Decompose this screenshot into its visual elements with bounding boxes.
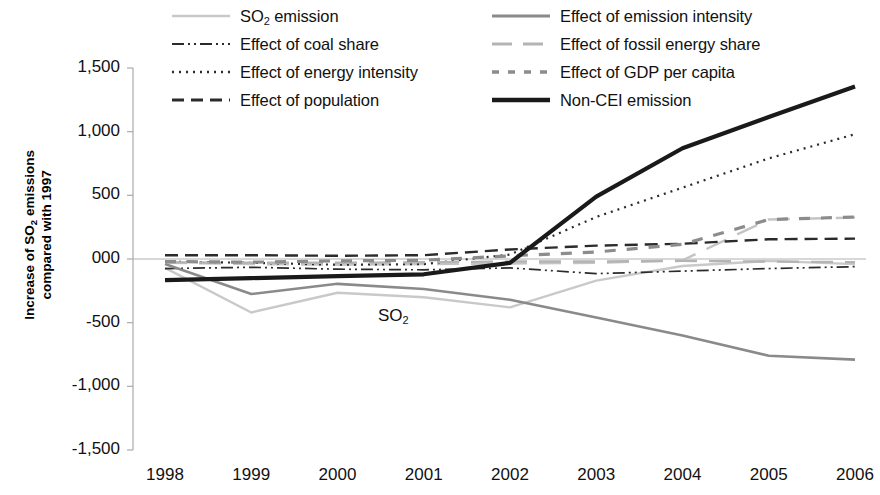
x-axis-tick-label: 2004 [648,465,718,485]
x-axis-tick-label: 1998 [130,465,200,485]
x-axis-tick-label: 1999 [216,465,286,485]
y-axis-tick-label: -1,500 [42,439,120,459]
y-axis-tick-label: 1,000 [42,121,120,141]
y-axis-tick-label: 1,500 [42,57,120,77]
x-axis-tick-label: 2000 [303,465,373,485]
plot-area [0,0,880,495]
series-line-3 [165,239,855,256]
y-axis-tick-label: 500 [42,184,120,204]
chart-container: SO2 emission Effect of emission intensit… [0,0,880,495]
series-line-2 [165,134,855,265]
so2-series-annotation: SO2 [378,306,409,326]
x-axis-tick-label: 2001 [389,465,459,485]
x-axis-tick-label: 2003 [561,465,631,485]
y-axis-tick-label: -1,000 [42,375,120,395]
x-axis-tick-label: 2006 [820,465,880,485]
y-axis-tick-label: 000 [42,248,120,268]
x-axis-tick-label: 2005 [734,465,804,485]
x-axis-tick-label: 2002 [475,465,545,485]
series-line-1 [165,267,855,274]
series-line-7 [165,86,855,280]
y-axis-tick-label: -500 [42,312,120,332]
